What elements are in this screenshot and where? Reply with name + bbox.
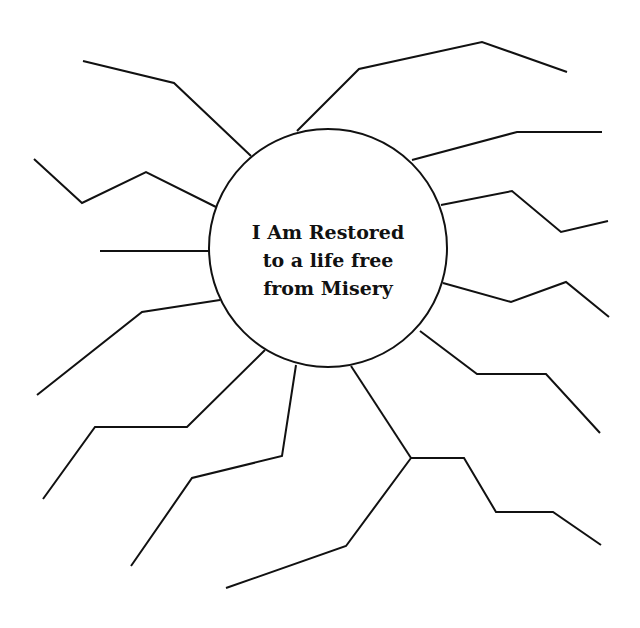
center-title-line-3: from Misery — [228, 274, 428, 302]
ray-9-branch-b — [226, 458, 411, 588]
ray-6 — [441, 191, 608, 232]
ray-12 — [37, 300, 220, 395]
ray-9-stem — [351, 366, 411, 458]
ray-1 — [83, 61, 251, 156]
ray-9-branch-a — [411, 458, 601, 545]
ray-2 — [34, 159, 216, 207]
center-title: I Am Restored to a life free from Misery — [228, 218, 428, 302]
center-title-line-1: I Am Restored — [228, 218, 428, 246]
ray-5 — [412, 132, 602, 160]
sun-mind-map-diagram — [0, 0, 640, 628]
ray-7 — [443, 282, 609, 317]
ray-10 — [131, 365, 296, 566]
ray-8 — [420, 331, 600, 433]
ray-11 — [43, 350, 265, 499]
ray-4 — [297, 42, 567, 131]
center-title-line-2: to a life free — [228, 246, 428, 274]
